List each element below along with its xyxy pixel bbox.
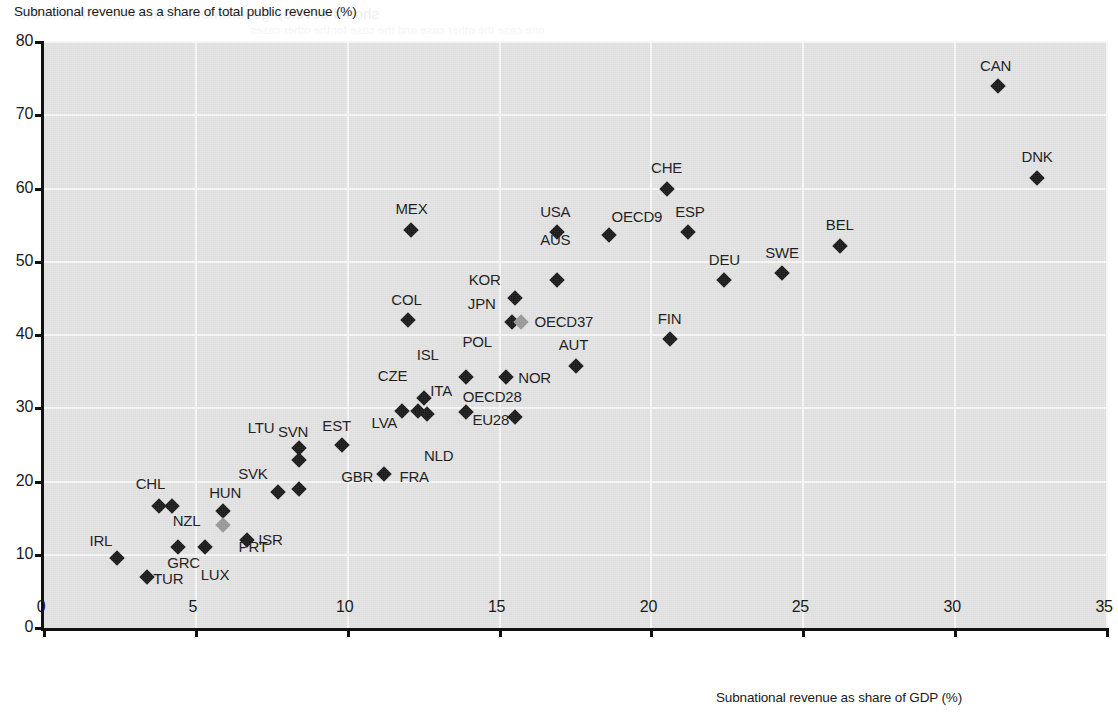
- data-point-hun: [215, 503, 231, 519]
- plot-area: IRLTURGRCLUXNZLCHLHUNPRTISRSVKSVNLTUESTG…: [41, 42, 1107, 631]
- gridline-horizontal: [44, 407, 1107, 409]
- x-axis-tick-label: 30: [929, 598, 975, 616]
- data-point-label-usa: USA: [540, 203, 570, 220]
- data-point-label-fra: FRA: [399, 468, 428, 485]
- y-axis-tick-label: 80: [0, 32, 33, 50]
- data-point-label-chl: CHL: [136, 475, 165, 492]
- y-axis-tick: [35, 41, 44, 44]
- x-axis-tick-label: 35: [1081, 598, 1118, 616]
- x-axis-tick: [650, 628, 653, 637]
- data-point-label-nor: NOR: [518, 369, 551, 386]
- data-point-label-cze: CZE: [378, 367, 407, 384]
- data-point-esp: [680, 225, 696, 241]
- y-axis-tick: [35, 407, 44, 410]
- y-axis-tick: [35, 334, 44, 337]
- y-axis-tick: [35, 554, 44, 557]
- gridline-horizontal: [44, 261, 1107, 263]
- x-axis-tick: [195, 628, 198, 637]
- y-axis-tick: [35, 627, 44, 630]
- x-axis-tick-label: 5: [170, 598, 216, 616]
- data-point-label-col: COL: [391, 291, 421, 308]
- data-point-label-svn: SVN: [278, 423, 308, 440]
- x-axis-tick-label: 15: [474, 598, 520, 616]
- data-point-label-jpn: JPN: [468, 295, 496, 312]
- data-point-dnk: [1029, 170, 1045, 186]
- data-point-swe: [774, 265, 790, 281]
- gridline-horizontal: [44, 481, 1107, 483]
- data-point-col: [401, 313, 417, 329]
- data-point-ltu: [291, 452, 307, 468]
- data-point-label-eu28: EU28: [472, 411, 509, 428]
- data-point-label-bel: BEL: [826, 216, 854, 233]
- data-point-label-nzl: NZL: [173, 512, 201, 529]
- data-point-label-oecd37: OECD37: [534, 313, 593, 330]
- data-point-label-isl: ISL: [417, 346, 439, 363]
- data-point-oecd9: [601, 227, 617, 243]
- y-axis-tick-label: 0: [0, 618, 33, 636]
- y-axis-tick: [35, 188, 44, 191]
- y-axis-tick: [35, 114, 44, 117]
- data-point-prt: [215, 518, 231, 534]
- data-point-label-hun: HUN: [209, 484, 241, 501]
- x-axis-tick: [1106, 628, 1109, 637]
- x-axis-tick-label: 20: [625, 598, 671, 616]
- y-axis-tick-label: 10: [0, 545, 33, 563]
- data-point-label-irl: IRL: [90, 532, 113, 549]
- x-axis-tick-label: 10: [322, 598, 368, 616]
- data-point-label-ltu: LTU: [248, 419, 275, 436]
- x-axis-tick: [802, 628, 805, 637]
- y-axis-tick-label: 20: [0, 472, 33, 490]
- y-axis-title: Subnational revenue as a share of total …: [14, 4, 357, 19]
- x-axis-tick-label: 0: [18, 598, 64, 616]
- data-point-kor: [507, 291, 523, 307]
- y-axis-tick: [35, 261, 44, 264]
- data-point-label-esp: ESP: [675, 203, 704, 220]
- data-point-label-can: CAN: [980, 57, 1011, 74]
- data-point-can: [990, 78, 1006, 94]
- data-point-label-oecd28: OECD28: [463, 388, 522, 405]
- x-axis-tick: [954, 628, 957, 637]
- scatter-chart-figure: should develop governments other that. W…: [0, 0, 1118, 717]
- y-axis-tick-label: 40: [0, 325, 33, 343]
- data-point-label-svk: SVK: [238, 465, 267, 482]
- data-point-irl: [109, 550, 125, 566]
- data-point-label-fin: FIN: [658, 310, 682, 327]
- data-point-label-nld: NLD: [424, 447, 453, 464]
- x-axis-title: Subnational revenue as share of GDP (%): [716, 690, 962, 705]
- data-point-label-ita: ITA: [430, 382, 452, 399]
- data-point-svk: [270, 485, 286, 501]
- data-point-label-gbr: GBR: [341, 468, 373, 485]
- data-point-mex: [404, 222, 420, 238]
- data-point-label-oecd9: OECD9: [612, 208, 663, 225]
- y-axis-tick-label: 30: [0, 398, 33, 416]
- data-point-pol-low: [291, 481, 307, 497]
- data-point-label-kor: KOR: [469, 271, 501, 288]
- y-axis-tick-label: 60: [0, 179, 33, 197]
- data-point-deu: [717, 272, 733, 288]
- data-point-label-aut: AUT: [559, 336, 588, 353]
- data-point-label-pol: POL: [463, 333, 492, 350]
- data-point-oecd37: [513, 314, 529, 330]
- y-axis-tick: [35, 481, 44, 484]
- data-point-chl: [152, 499, 168, 515]
- data-point-che: [659, 181, 675, 197]
- data-point-eu28: [507, 409, 523, 425]
- x-axis-tick: [347, 628, 350, 637]
- x-axis-tick: [499, 628, 502, 637]
- y-axis-tick-label: 70: [0, 105, 33, 123]
- data-point-label-lux: LUX: [201, 566, 230, 583]
- x-axis-tick-label: 25: [777, 598, 823, 616]
- gridline-horizontal: [44, 188, 1107, 190]
- data-point-label-deu: DEU: [709, 251, 740, 268]
- data-point-label-dnk: DNK: [1022, 148, 1053, 165]
- bleed-through-text: one case the other case and the case for…: [250, 24, 544, 36]
- gridline-horizontal: [44, 114, 1107, 116]
- data-point-label-grc: GRC: [167, 554, 200, 571]
- data-point-label-mex: MEX: [396, 200, 428, 217]
- data-point-label-che: CHE: [651, 159, 682, 176]
- y-axis-tick-label: 50: [0, 252, 33, 270]
- data-point-label-swe: SWE: [765, 244, 799, 261]
- data-point-label-lva: LVA: [372, 414, 398, 431]
- data-point-ita: [458, 370, 474, 386]
- gridline-horizontal: [44, 41, 1107, 43]
